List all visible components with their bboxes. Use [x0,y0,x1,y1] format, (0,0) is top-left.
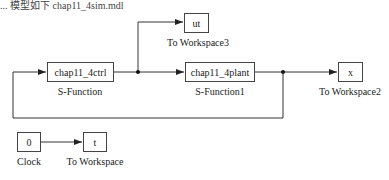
block-text: x [348,67,353,78]
block-x[interactable]: x [338,62,363,82]
block-text: 0 [27,137,32,148]
label-to-workspace3: To Workspace3 [167,37,229,48]
block-chap11-4ctrl[interactable]: chap11_4ctrl [47,62,114,82]
label-clock: Clock [17,156,41,167]
block-t[interactable]: t [83,132,107,152]
block-clock[interactable]: 0 [17,132,41,152]
block-text: chap11_4ctrl [55,67,107,78]
block-chap11-4plant[interactable]: chap11_4plant [185,62,255,82]
label-s-function: S-Function [58,86,102,97]
label-s-function1: S-Function1 [195,86,244,97]
block-ut[interactable]: ut [184,13,209,33]
block-text: ut [193,18,201,29]
block-text: t [94,137,97,148]
block-text: chap11_4plant [191,67,250,78]
label-to-workspace: To Workspace [67,156,124,167]
label-to-workspace2: To Workspace2 [319,86,381,97]
